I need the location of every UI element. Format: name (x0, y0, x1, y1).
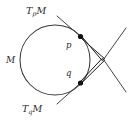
tangent-line-p-upper (57, 16, 81, 37)
tangent-line-q-lower (57, 83, 81, 104)
label-tangent-q-tail: M (32, 103, 43, 114)
label-tangent-p-tail: M (36, 5, 47, 16)
label-tangent-space-q: TqM (22, 103, 43, 116)
tangent-diagram: TpM TqM M p q (0, 0, 130, 120)
tangent-segment-p-wedge (81, 35, 105, 60)
tangent-segment-q-wedge (81, 59, 105, 84)
label-point-p: p (66, 40, 72, 50)
tangency-point-q-dot (78, 80, 83, 85)
label-point-q: q (66, 68, 72, 78)
figure-container: TpM TqM M p q (0, 0, 130, 120)
label-manifold: M (5, 55, 16, 65)
tangent-line-q-upper (104, 28, 127, 60)
label-tangent-space-p: TpM (26, 5, 47, 18)
tangency-point-p-dot (78, 34, 83, 39)
tangent-line-p-lower (104, 60, 127, 93)
